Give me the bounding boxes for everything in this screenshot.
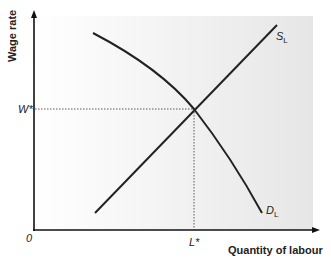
- demand-label: DL: [266, 204, 278, 219]
- x-axis-label: Quantity of labour: [228, 244, 323, 256]
- plot-background: [34, 16, 313, 230]
- y-axis-label: Wage rate: [6, 10, 18, 62]
- origin-label: 0: [26, 232, 32, 244]
- y-axis-arrow-icon: [31, 10, 37, 18]
- x-axis-arrow-icon: [312, 227, 320, 233]
- supply-label: SL: [276, 30, 288, 45]
- l-star-label: L*: [189, 236, 199, 248]
- w-star-label: W*: [18, 103, 33, 115]
